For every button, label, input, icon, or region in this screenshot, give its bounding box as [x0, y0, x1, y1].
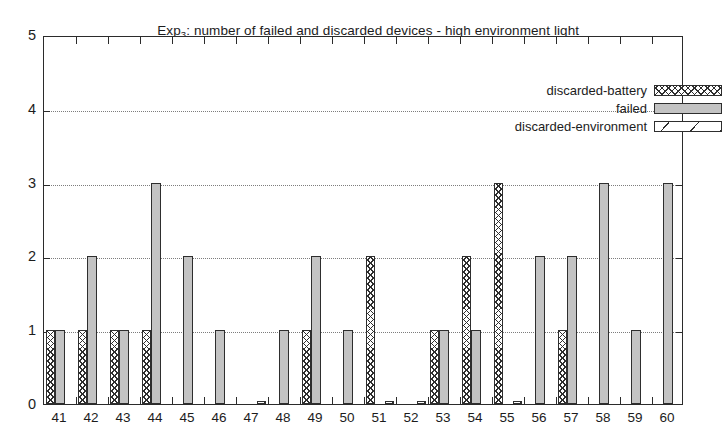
- bar: [302, 330, 312, 404]
- bar: [257, 401, 267, 404]
- x-tick-mark: [524, 397, 525, 404]
- x-tick-label: 47: [234, 410, 268, 425]
- bar: [513, 401, 523, 404]
- bar: [78, 330, 88, 404]
- bar: [417, 401, 427, 404]
- legend-swatch-battery: [654, 85, 722, 96]
- x-tick-mark: [396, 37, 397, 44]
- x-tick-label: 44: [138, 410, 172, 425]
- y-tick-mark: [44, 258, 50, 259]
- bar: [215, 330, 225, 404]
- x-tick-label: 55: [490, 410, 524, 425]
- gridline: [44, 258, 682, 259]
- x-tick-mark: [524, 37, 525, 44]
- y-tick-mark: [676, 258, 682, 259]
- gridline: [44, 332, 682, 333]
- bar: [183, 256, 193, 404]
- bar: [567, 256, 577, 404]
- x-tick-label: 59: [618, 410, 652, 425]
- y-tick-mark: [676, 185, 682, 186]
- x-tick-label: 41: [42, 410, 76, 425]
- bar: [46, 330, 56, 404]
- bar: [462, 256, 472, 404]
- y-tick-mark: [676, 332, 682, 333]
- x-tick-mark: [268, 397, 269, 404]
- x-tick-mark: [108, 37, 109, 44]
- x-tick-mark: [204, 397, 205, 404]
- x-tick-mark: [172, 397, 173, 404]
- x-tick-label: 60: [650, 410, 684, 425]
- legend-label: discarded-environment: [515, 119, 647, 134]
- x-tick-mark: [236, 397, 237, 404]
- x-tick-mark: [364, 37, 365, 44]
- y-tick-mark: [44, 111, 50, 112]
- legend-item: failed: [494, 100, 722, 117]
- bar: [439, 330, 449, 404]
- x-tick-mark: [396, 397, 397, 404]
- x-tick-mark: [332, 37, 333, 44]
- bar: [663, 183, 673, 404]
- x-tick-mark: [492, 37, 493, 44]
- x-tick-mark: [172, 37, 173, 44]
- legend-swatch-failed: [654, 103, 722, 114]
- legend-swatch-environment: [654, 121, 722, 132]
- x-tick-label: 48: [266, 410, 300, 425]
- x-tick-label: 58: [586, 410, 620, 425]
- bar: [279, 330, 289, 404]
- bar: [631, 330, 641, 404]
- x-tick-mark: [76, 37, 77, 44]
- y-tick-label: 4: [10, 101, 36, 117]
- bar: [87, 256, 97, 404]
- bar: [55, 330, 65, 404]
- x-tick-mark: [332, 397, 333, 404]
- bar: [599, 183, 609, 404]
- y-tick-label: 2: [10, 248, 36, 264]
- x-tick-mark: [620, 37, 621, 44]
- y-tick-label: 0: [10, 396, 36, 412]
- y-tick-label: 5: [10, 27, 36, 43]
- x-tick-mark: [588, 397, 589, 404]
- y-tick-label: 3: [10, 175, 36, 191]
- x-tick-label: 56: [522, 410, 556, 425]
- x-tick-label: 52: [394, 410, 428, 425]
- x-tick-mark: [204, 37, 205, 44]
- x-tick-label: 46: [202, 410, 236, 425]
- bar: [535, 256, 545, 404]
- x-tick-label: 49: [298, 410, 332, 425]
- bar: [366, 256, 376, 404]
- bar: [385, 401, 395, 404]
- x-tick-label: 54: [458, 410, 492, 425]
- x-tick-mark: [652, 397, 653, 404]
- x-tick-mark: [428, 37, 429, 44]
- bar: [151, 183, 161, 404]
- plot-area: discarded-batteryfaileddiscarded-environ…: [43, 36, 683, 405]
- legend-item: discarded-environment: [494, 118, 722, 135]
- x-tick-mark: [300, 37, 301, 44]
- legend-label: discarded-battery: [547, 83, 647, 98]
- x-tick-label: 51: [362, 410, 396, 425]
- x-tick-mark: [652, 37, 653, 44]
- bar: [471, 330, 481, 404]
- x-tick-label: 53: [426, 410, 460, 425]
- bar: [311, 256, 321, 404]
- x-tick-mark: [236, 37, 237, 44]
- x-tick-mark: [460, 37, 461, 44]
- x-tick-mark: [620, 397, 621, 404]
- x-tick-mark: [140, 37, 141, 44]
- bar: [119, 330, 129, 404]
- x-tick-label: 50: [330, 410, 364, 425]
- x-tick-mark: [556, 37, 557, 44]
- gridline: [44, 185, 682, 186]
- legend-label: failed: [616, 101, 647, 116]
- legend-item: discarded-battery: [494, 82, 722, 99]
- bar: [110, 330, 120, 404]
- x-tick-label: 45: [170, 410, 204, 425]
- bar: [142, 330, 152, 404]
- bar: [343, 330, 353, 404]
- y-tick-label: 1: [10, 322, 36, 338]
- bar: [494, 183, 504, 404]
- x-tick-mark: [588, 37, 589, 44]
- bar: [430, 330, 440, 404]
- x-tick-label: 57: [554, 410, 588, 425]
